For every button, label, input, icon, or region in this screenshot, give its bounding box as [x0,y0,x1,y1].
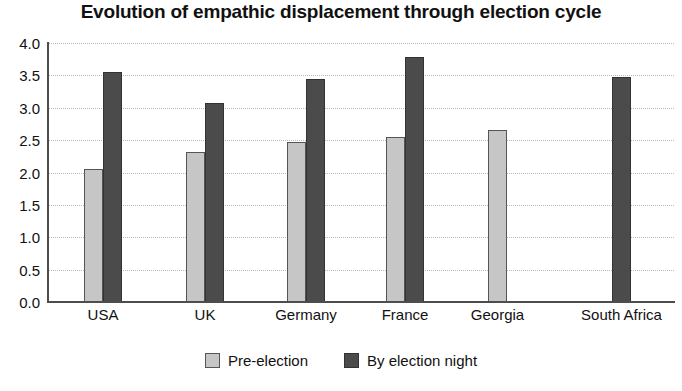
bar-by-election-night [612,77,631,302]
x-axis-line [47,301,675,303]
gridline [48,237,674,239]
y-axis-line [47,42,49,303]
y-axis-tick-label: 3.0 [0,101,40,116]
legend-label: Pre-election [228,352,308,369]
gridline [48,140,674,142]
bar-by-election-night [306,79,325,302]
legend-swatch-icon [344,353,359,368]
y-axis-tick-label: 2.5 [0,133,40,148]
gridline [48,108,674,110]
x-axis-label-georgia: Georgia [438,306,558,324]
bar-pre-election [186,152,205,302]
x-axis-label-south-africa: South Africa [562,306,682,324]
bar-chart: Evolution of empathic displacement throu… [0,0,682,391]
gridline [48,270,674,272]
bar-by-election-night [205,103,224,302]
bar-pre-election [84,169,103,302]
y-axis-tick-label: 1.0 [0,230,40,245]
y-axis-tick-label: 1.5 [0,198,40,213]
legend-item[interactable]: By election night [344,352,477,369]
y-axis-tick-label: 0.5 [0,263,40,278]
legend-item[interactable]: Pre-election [205,352,308,369]
gridline [48,43,674,45]
gridline [48,205,674,207]
bar-pre-election [287,142,306,302]
y-axis-tick-label: 2.0 [0,166,40,181]
y-axis-tick-label: 0.0 [0,295,40,310]
bar-pre-election [488,130,507,302]
legend-label: By election night [367,352,477,369]
legend-swatch-icon [205,353,220,368]
chart-legend: Pre-electionBy election night [0,352,682,369]
y-axis-tick-label: 3.5 [0,68,40,83]
bar-by-election-night [405,57,424,302]
chart-title: Evolution of empathic displacement throu… [0,1,682,23]
bar-pre-election [386,137,405,302]
bar-by-election-night [103,72,122,302]
gridline [48,75,674,77]
y-axis-tick-label: 4.0 [0,36,40,51]
gridline [48,173,674,175]
plot-area [48,43,674,302]
